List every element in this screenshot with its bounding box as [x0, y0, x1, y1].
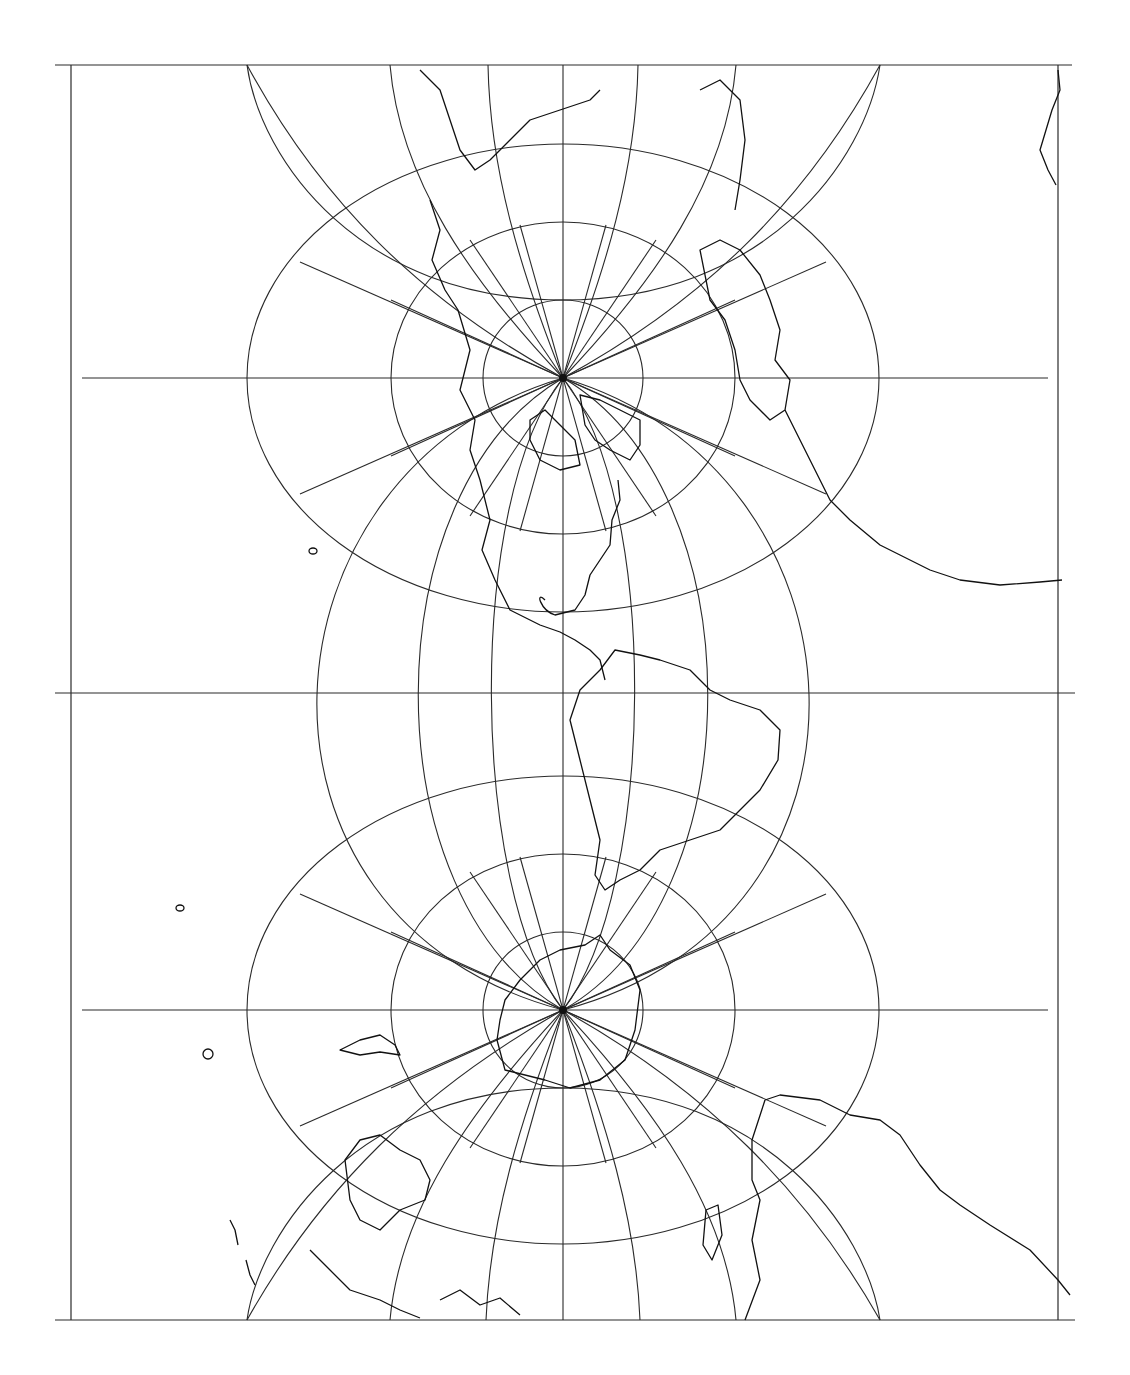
world-map [0, 0, 1130, 1375]
north-pole-marker [559, 374, 567, 382]
south-pole-marker [559, 1006, 567, 1014]
